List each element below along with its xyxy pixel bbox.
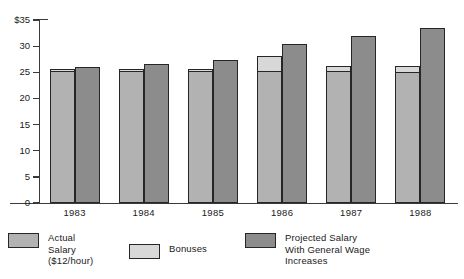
y-tick-label-10: 10 [0,146,30,156]
bar-bonuses-1988 [395,66,420,73]
x-axis-label-1983: 1983 [50,208,100,218]
legend-swatch-projected-salary [245,233,276,248]
y-tick-label-30: 30 [0,41,30,51]
x-axis-label-1988: 1988 [395,208,445,218]
x-axis-label-1984: 1984 [119,208,169,218]
y-tick-label-20: 20 [0,93,30,103]
y-tick-10 [33,150,40,151]
x-axis-label-1987: 1987 [326,208,376,218]
legend-item-actual-salary: Actual Salary ($12/hour) [8,232,93,267]
y-tick-30 [33,46,40,47]
y-tick-label-5: 5 [0,172,30,182]
x-axis-line [10,203,458,204]
y-tick-25 [33,72,40,73]
legend-label-bonuses: Bonuses [169,243,207,255]
y-tick-label-25: 25 [0,67,30,77]
x-axis-label-1985: 1985 [188,208,238,218]
plot-area [40,20,455,203]
y-tick-5 [33,176,40,177]
bar-actual-salary-1988 [395,72,420,203]
y-tick-20 [33,98,40,99]
legend-swatch-bonuses [129,244,160,259]
legend-label-projected-salary: Projected Salary With General Wage Incre… [285,232,370,267]
y-tick-label-15: 15 [0,120,30,130]
y-tick-0 [33,202,40,203]
legend-item-projected-salary: Projected Salary With General Wage Incre… [245,232,370,267]
bar-projected-salary-1988 [420,28,445,203]
bar-group-1988 [40,20,455,203]
legend-label-actual-salary: Actual Salary ($12/hour) [48,232,93,267]
legend-swatch-actual-salary [8,233,39,248]
chart-legend: Actual Salary ($12/hour) Bonuses Project… [0,232,464,278]
legend-item-bonuses: Bonuses [129,243,207,259]
y-tick-15 [33,124,40,125]
bar-chart: 051015202530$35 198319841985198619871988… [0,0,464,279]
y-tick-label-0: 0 [0,198,30,208]
y-tick-35 [33,19,40,20]
y-tick-label-35: $35 [0,15,30,25]
x-axis-label-1986: 1986 [257,208,307,218]
